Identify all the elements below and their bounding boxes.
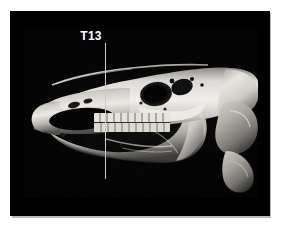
figure-root: T13	[0, 0, 284, 232]
render-noise	[10, 11, 270, 216]
ct-render-viewport[interactable]: T13	[10, 11, 270, 216]
skull-volume-render	[10, 11, 270, 216]
